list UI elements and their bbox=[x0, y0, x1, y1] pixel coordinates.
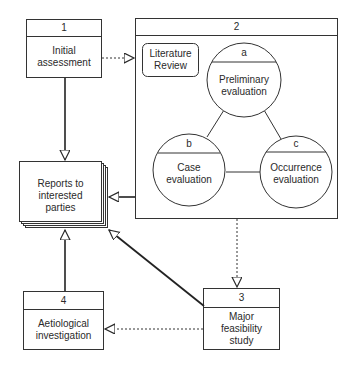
box3-line2: feasibility bbox=[203, 323, 280, 335]
reports-label: Reports to interested parties bbox=[19, 178, 102, 214]
box3-line1: Major bbox=[203, 311, 280, 323]
box1-label-line1: Initial bbox=[26, 45, 102, 57]
arrow-box3-to-reports bbox=[109, 230, 204, 306]
box4-line2: investigation bbox=[23, 330, 104, 342]
reports-line3: parties bbox=[19, 202, 102, 214]
box4-label: Aetiological investigation bbox=[23, 318, 104, 342]
circle-a-label: Preliminary evaluation bbox=[207, 74, 281, 98]
circle-a-line2: evaluation bbox=[207, 86, 281, 98]
box1-label-line2: assessment bbox=[26, 57, 102, 69]
circle-b-label: Case evaluation bbox=[153, 162, 225, 186]
circle-b-letter: b bbox=[153, 138, 225, 150]
literature-review-line1: Literature bbox=[142, 48, 199, 60]
box1-number: 1 bbox=[26, 22, 102, 34]
box3-line3: study bbox=[203, 335, 280, 347]
circle-c-label: Occurrence evaluation bbox=[260, 162, 332, 186]
box1-label: Initial assessment bbox=[26, 45, 102, 69]
circle-a-letter: a bbox=[207, 47, 281, 59]
literature-review-line2: Review bbox=[142, 60, 199, 72]
circle-b-line2: evaluation bbox=[153, 174, 225, 186]
reports-line2: interested bbox=[19, 190, 102, 202]
edge-a-b bbox=[207, 110, 224, 137]
reports-line1: Reports to bbox=[19, 178, 102, 190]
literature-review-label: Literature Review bbox=[142, 48, 199, 72]
edge-a-c bbox=[264, 110, 281, 139]
circle-c-line1: Occurrence bbox=[260, 162, 332, 174]
box3-number: 3 bbox=[203, 292, 280, 304]
circle-c-letter: c bbox=[260, 138, 332, 150]
circle-a-line1: Preliminary bbox=[207, 74, 281, 86]
box3-label: Major feasibility study bbox=[203, 311, 280, 347]
circle-c-line2: evaluation bbox=[260, 174, 332, 186]
box4-number: 4 bbox=[23, 295, 104, 307]
box4-line1: Aetiological bbox=[23, 318, 104, 330]
box2-number: 2 bbox=[135, 21, 338, 33]
circle-b-line1: Case bbox=[153, 162, 225, 174]
